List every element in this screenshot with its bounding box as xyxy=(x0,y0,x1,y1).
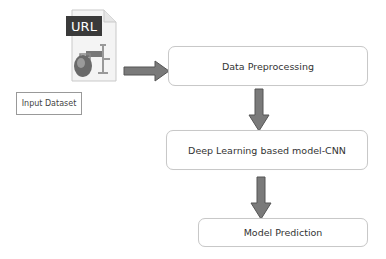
step-model-prediction: Model Prediction xyxy=(198,218,368,247)
url-badge-text: URL xyxy=(71,19,98,34)
arrow-down-icon xyxy=(250,176,272,220)
step-data-preprocessing: Data Preprocessing xyxy=(168,46,368,86)
url-file-icon: URL xyxy=(66,8,118,83)
step-label: Deep Learning based model-CNN xyxy=(188,145,346,156)
arrow-right-icon xyxy=(123,60,171,82)
input-dataset-label: Input Dataset xyxy=(16,92,82,115)
step-deep-learning-model: Deep Learning based model-CNN xyxy=(166,130,368,170)
step-label: Model Prediction xyxy=(244,227,323,238)
arrow-down-icon xyxy=(248,88,270,132)
step-label: Data Preprocessing xyxy=(222,61,314,72)
